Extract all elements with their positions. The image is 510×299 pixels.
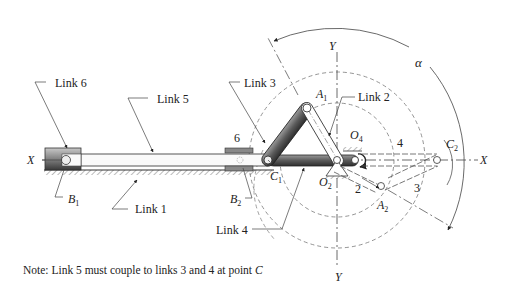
label-link4: Link 4 [216,224,248,236]
alpha-ext-line-lower [388,190,453,228]
link3-pos2-a [388,155,436,178]
label-c2: C2 [446,138,458,150]
o4-hatch [343,147,362,151]
label-o2: O2 [319,176,332,188]
label-three: 3 [414,182,420,194]
label-four: 4 [397,137,403,149]
label-o4: O4 [350,129,363,141]
a2-pin [378,183,385,190]
label-link2: Link 2 [358,91,390,103]
label-x-left: X [27,154,34,166]
b1-pin [62,156,71,165]
guide-bottom-b2 [225,166,253,171]
label-b1: B1 [68,193,79,205]
label-y-top: Y [329,40,336,52]
label-x-right: X [480,154,487,166]
leader-link1 [112,180,137,209]
o2-pin [334,157,341,164]
leader-link5 [128,98,153,152]
a1-pin [303,104,311,112]
label-y-bottom: Y [335,271,342,283]
label-link1: Link 1 [135,203,167,215]
label-link3: Link 3 [244,77,276,89]
c2-pin [434,157,441,164]
alpha-arc-upper [274,28,409,47]
label-six: 6 [234,132,240,144]
guide-top-b2 [225,148,253,153]
link5-bar [62,154,268,166]
link4-rod [268,155,358,166]
label-a2: A2 [377,199,388,211]
label-link5: Link 5 [157,93,189,105]
o4-rotation-arrow [358,154,366,167]
note-text: Note: Link 5 must couple to links 3 and … [23,264,263,276]
o4-pin [352,157,359,164]
label-c1: C1 [270,170,282,182]
leader-link6 [35,82,67,148]
label-b2: B2 [230,193,241,205]
mechanism-diagram: Link 6 Link 5 Link 3 Link 2 Link 1 Link … [0,0,510,299]
mechanism-drawing [0,0,510,299]
label-alpha: α [415,56,422,69]
label-link6: Link 6 [55,77,87,89]
label-two: 2 [355,183,361,195]
label-a1: A1 [316,88,327,100]
